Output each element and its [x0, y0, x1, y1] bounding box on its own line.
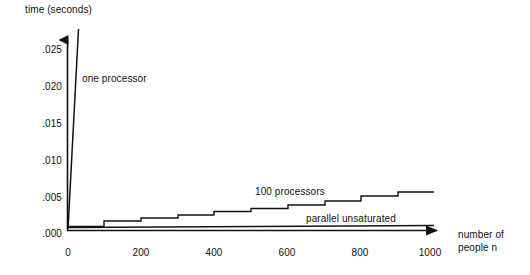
y-tick-label-025: .025 — [28, 44, 62, 56]
x-axis-title-line2: people n — [458, 241, 528, 254]
x-tick-label-600: 600 — [267, 247, 307, 259]
y-tick-label-020: .020 — [28, 81, 62, 93]
series-parallel-unsaturated — [68, 226, 434, 228]
annotation-100-processors: 100 processors — [255, 186, 325, 198]
x-tick-label-200: 200 — [121, 247, 161, 259]
y-tick-label-000: .000 — [28, 228, 62, 240]
annotation-one-processor: one processor — [82, 73, 147, 85]
y-axis-title: time (seconds) — [25, 4, 92, 16]
y-tick-label-015: .015 — [28, 118, 62, 130]
y-tick-label-005: .005 — [28, 192, 62, 204]
x-tick-label-800: 800 — [340, 247, 380, 259]
x-tick-label-400: 400 — [194, 247, 234, 259]
x-tick-label-0: 0 — [48, 247, 88, 259]
chart-plot-area — [0, 0, 530, 275]
x-tick-label-1000: 1000 — [410, 247, 450, 259]
series-one-processor — [68, 29, 79, 229]
annotation-parallel-unsaturated: parallel unsaturated — [306, 213, 396, 225]
y-tick-label-010: .010 — [28, 155, 62, 167]
x-axis-title-line1: number of — [458, 228, 528, 241]
chart-figure: time (seconds) .025 .020 .015 .010 .005 … — [0, 0, 530, 275]
